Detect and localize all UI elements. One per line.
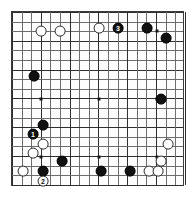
white-stone[interactable]	[38, 139, 49, 150]
move-number-label: 2	[41, 177, 45, 184]
grid-line-vertical	[146, 12, 147, 185]
star-point	[98, 98, 101, 101]
grid-line-vertical	[127, 12, 128, 185]
white-stone[interactable]	[153, 166, 164, 177]
white-stone[interactable]	[18, 166, 29, 177]
grid-line-vertical	[118, 12, 119, 185]
black-stone[interactable]	[142, 23, 153, 34]
black-stone[interactable]	[96, 166, 107, 177]
grid-line-vertical	[185, 12, 186, 185]
white-stone[interactable]	[55, 26, 66, 37]
numbered-stone-1[interactable]: 1	[28, 129, 39, 140]
white-stone[interactable]	[28, 148, 39, 159]
go-diagram-figure: 312	[0, 0, 194, 199]
grid-line-horizontal	[12, 118, 183, 119]
star-point	[98, 156, 101, 159]
grid-line-vertical	[175, 12, 176, 185]
white-stone[interactable]	[163, 139, 174, 150]
black-stone[interactable]	[156, 94, 167, 105]
black-stone[interactable]	[38, 120, 49, 131]
black-stone[interactable]	[29, 71, 40, 82]
grid-line-vertical	[108, 12, 109, 185]
black-stone[interactable]	[57, 156, 68, 167]
grid-line-horizontal	[12, 185, 183, 186]
grid-line-vertical	[137, 12, 138, 185]
star-point	[156, 30, 159, 33]
black-stone[interactable]	[161, 33, 172, 44]
star-point	[40, 156, 43, 159]
grid-line-horizontal	[12, 108, 183, 109]
move-number-label: 1	[31, 130, 35, 137]
white-stone[interactable]	[36, 26, 47, 37]
move-number-label: 3	[116, 24, 120, 31]
white-stone[interactable]	[94, 23, 105, 34]
black-stone[interactable]	[125, 166, 136, 177]
star-point	[40, 98, 43, 101]
numbered-stone-3[interactable]: 3	[113, 23, 124, 34]
go-board[interactable]: 312	[11, 11, 184, 186]
numbered-stone-2[interactable]: 2	[38, 176, 49, 187]
